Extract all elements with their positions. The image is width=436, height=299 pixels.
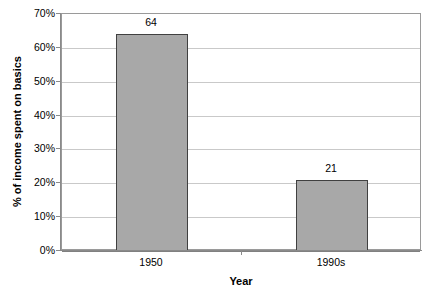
bar-chart: % of income spent on basics 70%60%50%40%… — [0, 0, 436, 299]
plot-inner — [62, 14, 420, 249]
y-axis-tick-mark — [56, 148, 61, 149]
y-axis-tick-label: 40% — [19, 110, 55, 120]
bar-value-label: 64 — [115, 17, 187, 28]
x-axis-title: Year — [61, 275, 421, 288]
y-axis-tick-labels: 70%60%50%40%30%20%10%0% — [17, 0, 55, 299]
y-axis-tick-label: 0% — [19, 245, 55, 255]
y-axis-tick-mark — [56, 13, 61, 14]
y-axis-tick-label: 10% — [19, 211, 55, 221]
y-axis-tick-mark — [56, 115, 61, 116]
y-axis-tick-mark — [56, 216, 61, 217]
x-axis-tick-mark — [241, 250, 242, 255]
y-axis-tick-mark — [56, 250, 61, 251]
y-axis-tick-label: 50% — [19, 76, 55, 86]
plot-area — [61, 13, 421, 250]
x-axis-tick-label: 1990s — [291, 256, 371, 268]
y-axis-tick-label: 60% — [19, 42, 55, 52]
y-axis-tick-mark — [56, 81, 61, 82]
y-axis-tick-label: 30% — [19, 143, 55, 153]
y-axis-tick-label: 20% — [19, 177, 55, 187]
y-axis-tick-mark — [56, 182, 61, 183]
y-axis-tick-mark — [56, 47, 61, 48]
bar — [116, 34, 188, 251]
y-axis-tick-label: 70% — [19, 8, 55, 18]
bar-value-label: 21 — [295, 163, 367, 174]
x-axis-tick-label: 1950 — [111, 256, 191, 268]
bar — [296, 180, 368, 251]
